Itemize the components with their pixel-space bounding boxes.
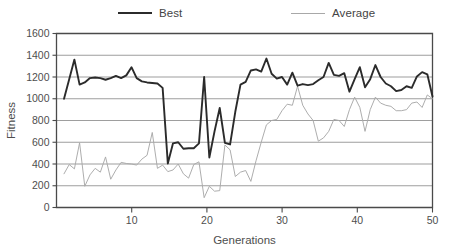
y-tick-label: 0	[44, 201, 50, 213]
y-tick-label: 600	[32, 136, 50, 148]
plot-area: 02004006008001000120014001600 1020304050…	[0, 0, 449, 248]
x-tick-label: 50	[427, 214, 439, 226]
x-tick-label: 20	[201, 214, 213, 226]
y-axis-ticks: 02004006008001000120014001600	[26, 27, 56, 213]
x-axis-title: Generations	[213, 234, 276, 246]
fitness-line-chart: Best Average 020040060080010001200140016…	[0, 0, 449, 248]
y-tick-label: 1200	[26, 71, 50, 83]
y-tick-label: 1000	[26, 92, 50, 104]
y-tick-label: 1400	[26, 49, 50, 61]
x-tick-label: 40	[351, 214, 363, 226]
y-tick-label: 800	[32, 114, 50, 126]
x-tick-label: 30	[276, 214, 288, 226]
x-axis-ticks: 1020304050	[126, 208, 439, 227]
y-axis-title: Fitness	[5, 102, 17, 139]
y-tick-label: 1600	[26, 27, 50, 39]
gridlines	[57, 55, 433, 186]
y-tick-label: 200	[32, 179, 50, 191]
y-tick-label: 400	[32, 158, 50, 170]
x-tick-label: 10	[126, 214, 138, 226]
series-line-best	[64, 59, 432, 164]
